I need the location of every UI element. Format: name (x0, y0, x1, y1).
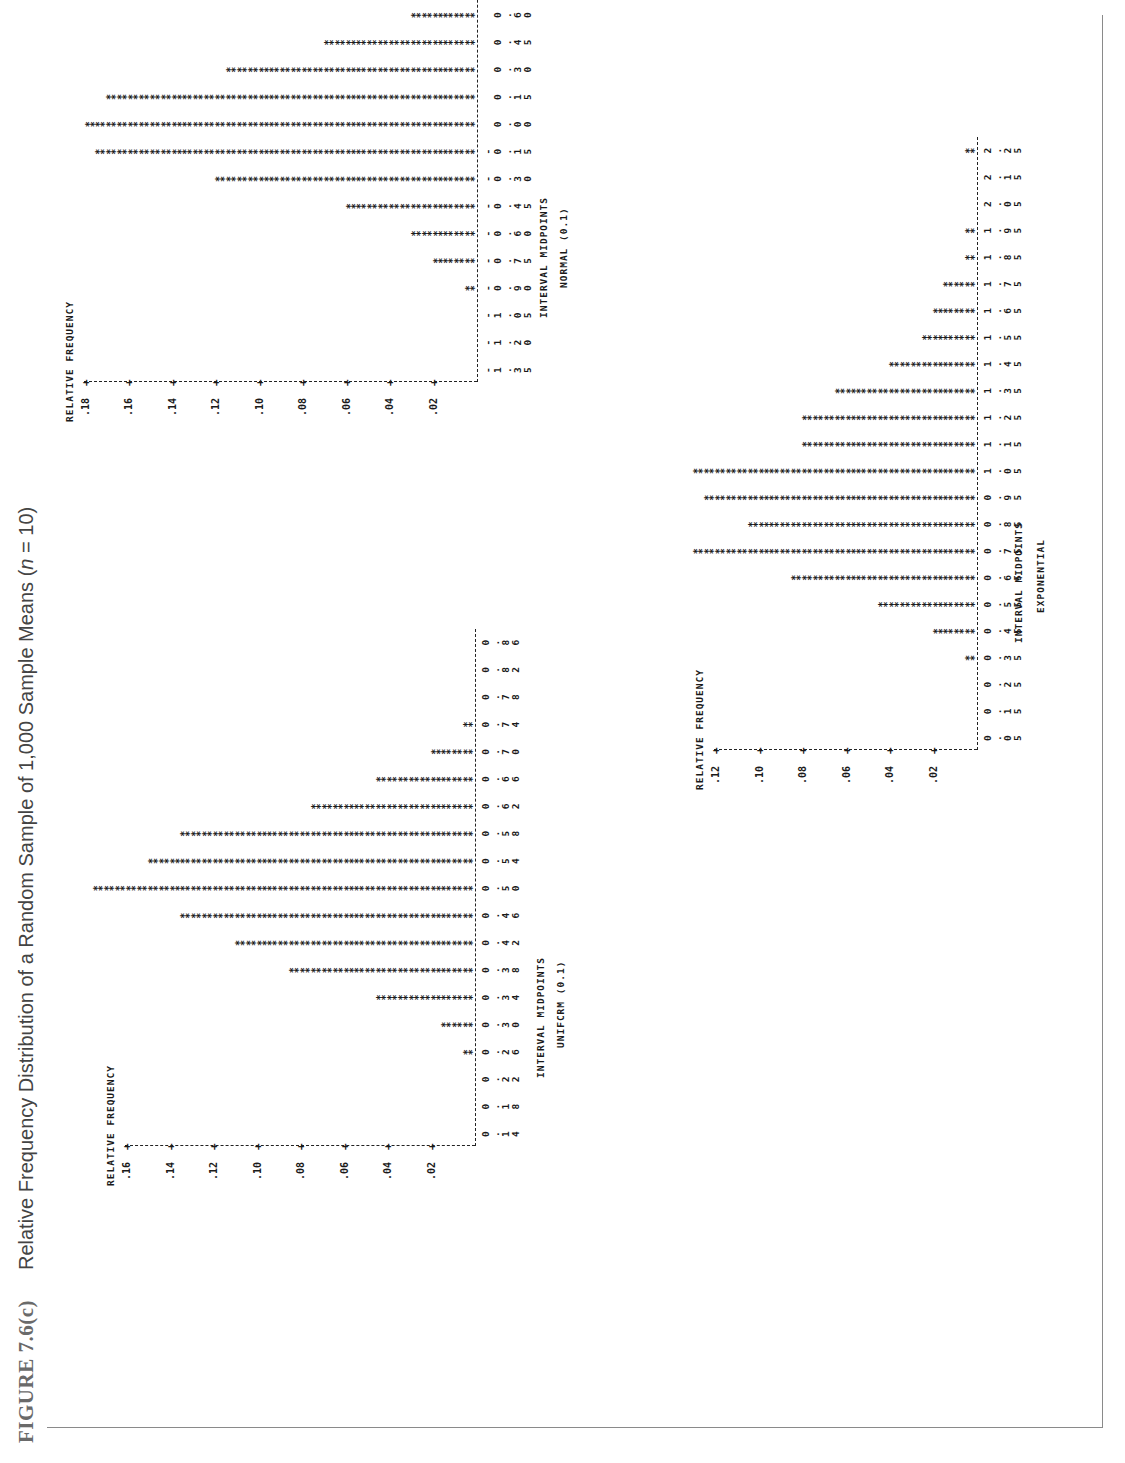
bar-symbol: ** (880, 600, 890, 610)
x-bin-label: -0.15 (483, 146, 533, 158)
bar-symbol: ** (804, 413, 814, 423)
bar-symbol: ** (695, 546, 705, 556)
bar-symbol: ** (804, 439, 814, 449)
x-bin-label: 1.55 (983, 332, 1023, 344)
y-tick-label: .10 (754, 766, 765, 784)
bar-symbol: ** (837, 386, 847, 396)
y-axis-title: RELATIVE FREQUENCY (694, 669, 705, 790)
bar-symbol: ** (891, 359, 901, 369)
x-bin-label: 0.30 (481, 1019, 521, 1031)
bar-symbol: ** (945, 279, 955, 289)
y-axis-title: RELATIVE FREQUENCY (105, 1065, 116, 1186)
figure-number: FIGURE 7.6(c) (14, 1300, 39, 1443)
bar-symbol: ** (237, 938, 247, 948)
bar-symbol: ** (97, 147, 107, 157)
y-tick-mark: + (208, 1143, 219, 1150)
bar-symbol: ** (967, 146, 977, 156)
y-tick-mark: + (210, 379, 221, 386)
y-tick-mark: + (428, 379, 439, 386)
bar-symbol: ** (967, 226, 977, 236)
x-bin-label: 0.26 (481, 1046, 521, 1058)
y-tick-label: .02 (428, 398, 439, 416)
bar-symbol: ** (435, 256, 445, 266)
y-tick-label: .02 (426, 1162, 437, 1180)
y-tick-mark: + (382, 1143, 393, 1150)
bar-symbol: ** (326, 37, 336, 47)
x-bin-label: 0.38 (481, 964, 521, 976)
figure-title-prefix: Relative Frequency Distribution of a Ran… (15, 570, 37, 1270)
y-tick-label: .08 (297, 398, 308, 416)
bar-symbol: ** (433, 747, 443, 757)
x-bin-label: 1.25 (983, 412, 1023, 424)
x-bin-label: 1.15 (983, 438, 1023, 450)
x-bin-label: 0.05 (983, 732, 1023, 744)
bar-symbol: ** (695, 466, 705, 476)
x-bin-label: 1.85 (983, 251, 1023, 263)
y-tick-mark: + (165, 1143, 176, 1150)
y-tick-label: .06 (341, 398, 352, 416)
x-bin-label: 0.60 (483, 9, 533, 21)
y-tick-mark: + (426, 1143, 437, 1150)
x-bin-label: 0.46 (481, 910, 521, 922)
bar-symbol: ** (95, 883, 105, 893)
x-bin-label: 0.82 (481, 664, 521, 676)
y-tick-mark: + (252, 1143, 263, 1150)
x-bin-label: 0.35 (983, 652, 1023, 664)
y-tick-label: .18 (80, 398, 91, 416)
x-bin-label: 2.05 (983, 198, 1023, 210)
x-bin-label: 1.05 (983, 465, 1023, 477)
y-tick-mark: + (710, 747, 721, 754)
x-bin-label: 0.15 (983, 705, 1023, 717)
figure-title-variable: n (15, 559, 37, 570)
bar-symbol: ** (413, 10, 423, 20)
y-tick-mark: + (339, 1143, 350, 1150)
y-axis-line (84, 379, 478, 382)
y-tick-label: .14 (167, 398, 178, 416)
x-bin-label: -0.30 (483, 173, 533, 185)
bar-symbol: ** (182, 829, 192, 839)
x-bin-label: -1.20 (483, 337, 533, 349)
bar-symbol: ** (750, 519, 760, 529)
y-tick-label: .04 (884, 766, 895, 784)
y-tick-mark: + (754, 747, 765, 754)
y-tick-label: .10 (254, 398, 265, 416)
y-tick-mark: + (297, 379, 308, 386)
x-bin-label: 1.65 (983, 305, 1023, 317)
bar-symbol: ** (443, 1020, 453, 1030)
bar-symbol: ** (348, 201, 358, 211)
y-tick-label: .14 (165, 1162, 176, 1180)
x-bin-label: 1.95 (983, 225, 1023, 237)
x-bin-label: 0.42 (481, 937, 521, 949)
x-bin-label: -1.35 (483, 364, 533, 376)
y-tick-mark: + (167, 379, 178, 386)
bar-symbol: ** (924, 333, 934, 343)
y-tick-mark: + (841, 747, 852, 754)
x-bin-label: 0.66 (481, 773, 521, 785)
bar-symbol: ** (935, 306, 945, 316)
x-bin-label: 0.70 (481, 746, 521, 758)
bar-symbol: ** (378, 774, 388, 784)
y-tick-label: .10 (252, 1162, 263, 1180)
y-tick-label: .12 (208, 1162, 219, 1180)
x-bin-label: -0.75 (483, 255, 533, 267)
y-tick-label: .16 (123, 398, 134, 416)
x-bin-label: 0.50 (481, 882, 521, 894)
y-tick-label: .08 (295, 1162, 306, 1180)
x-bin-label: 2.25 (983, 145, 1023, 157)
bar-symbol: ** (108, 92, 118, 102)
bar-symbol: ** (150, 856, 160, 866)
y-tick-mark: + (384, 379, 395, 386)
x-axis-title: INTERVAL MIDPOINTS (538, 197, 549, 318)
x-bin-label: 0.15 (483, 91, 533, 103)
x-bin-label: 0.45 (483, 36, 533, 48)
figure-title-suffix: = 10) (15, 507, 37, 559)
x-bin-label: 0.54 (481, 855, 521, 867)
figure-page: FIGURE 7.6(c) Relative Frequency Distrib… (0, 0, 1125, 1463)
bar-symbol: ** (313, 801, 323, 811)
x-axis-title: INTERVAL MIDPOINTS (1013, 522, 1024, 643)
x-bin-label: 1.75 (983, 278, 1023, 290)
x-bin-label: -0.90 (483, 282, 533, 294)
bar-symbol: ** (291, 965, 301, 975)
y-tick-label: .06 (841, 766, 852, 784)
chart-subtitle: NORMAL (0.1) (558, 207, 569, 288)
